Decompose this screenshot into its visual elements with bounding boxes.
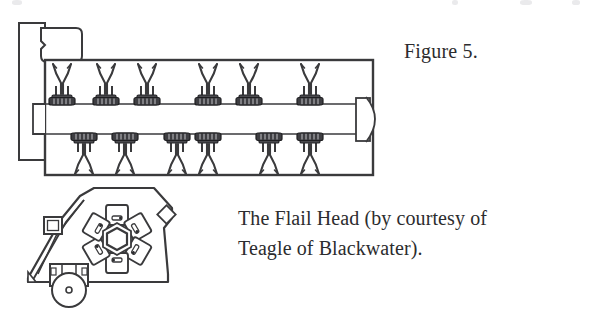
caption-line-2: Teagle of Blackwater). — [238, 233, 598, 263]
scan-artifact — [452, 0, 458, 5]
figure-caption: The Flail Head (by courtesy of Teagle of… — [238, 203, 598, 263]
figure-page: Figure 5. The Flail Head (by courtesy of… — [0, 0, 599, 313]
side-plate — [19, 23, 45, 160]
flail-head-cross-section-diagram — [22, 182, 212, 313]
roller-hub — [66, 287, 72, 293]
scan-artifact — [12, 0, 22, 5]
hood-bracket-inner — [48, 221, 59, 231]
scan-artifact — [572, 0, 580, 5]
rotor-housing — [45, 60, 373, 175]
rotor-hub-hexagon — [107, 228, 127, 250]
figure-number-label: Figure 5. — [404, 38, 478, 64]
left-bearing-notch — [33, 104, 45, 134]
gearbox-housing — [41, 28, 82, 62]
flail-mower-top-view-diagram — [8, 18, 388, 188]
scan-artifact — [520, 0, 532, 5]
caption-line-1: The Flail Head (by courtesy of — [238, 203, 598, 233]
roller-assembly — [50, 264, 88, 307]
